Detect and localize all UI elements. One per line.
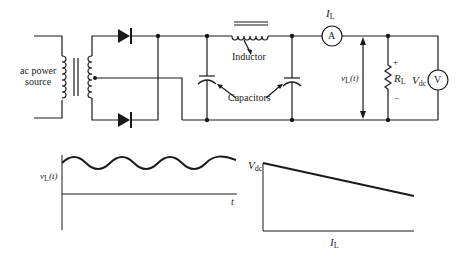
inductor-label: Inductor (232, 52, 266, 62)
load-resistor (385, 36, 391, 120)
transformer-primary-coil (62, 56, 66, 98)
secondary-top-lead (92, 36, 118, 56)
diode-bottom-bar (130, 112, 132, 128)
vdc-label: Vdc (412, 75, 426, 88)
regulation-graph (263, 163, 414, 231)
secondary-bottom-lead (92, 98, 118, 120)
capacitors-label: Capacitors (228, 93, 271, 103)
ripple-ylabel: vL(t) (40, 172, 57, 183)
vL-arrow-up (360, 37, 366, 45)
primary-bottom-lead (34, 100, 62, 118)
transformer-secondary-coil (88, 56, 92, 98)
inductor-coil (232, 36, 268, 40)
source-label-line2: source (25, 77, 51, 87)
resistor-label: RL (394, 73, 406, 86)
reg-ylabel: Vdc (248, 160, 262, 173)
minus-sign: − (394, 94, 399, 103)
top-rail-3 (342, 36, 438, 70)
diode-top-bar (130, 28, 132, 44)
load-voltage-label: vL(t) (341, 74, 358, 85)
reg-xlabel: IL (330, 237, 339, 250)
center-tap-wire (95, 78, 182, 120)
source-label-line1: ac power (20, 66, 56, 76)
vL-arrow-down (360, 111, 366, 119)
circuit-diagram (0, 0, 461, 257)
diode-bottom-icon (118, 113, 130, 127)
diode-top-icon (118, 29, 130, 43)
voltmeter-symbol: V (434, 75, 441, 85)
current-label: IL (326, 8, 335, 21)
ripple-xlabel: t (231, 197, 234, 207)
ripple-graph (62, 155, 237, 230)
ammeter-symbol: A (328, 31, 335, 41)
plus-sign: + (393, 58, 398, 67)
primary-top-lead (34, 36, 62, 56)
